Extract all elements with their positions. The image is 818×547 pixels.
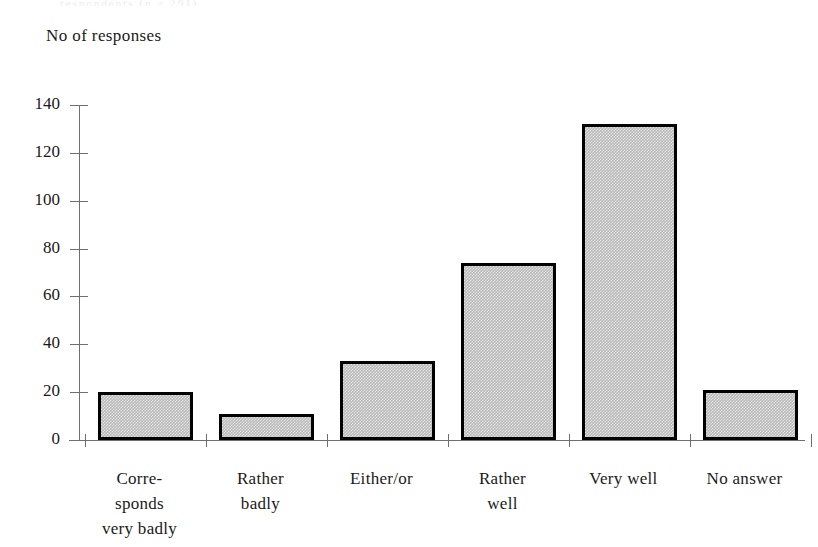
- y-tick-label-100: 100: [14, 190, 60, 210]
- y-tick-label-20: 20: [14, 381, 60, 401]
- bar-1: [98, 392, 194, 440]
- y-tick-80: 80: [70, 249, 88, 250]
- x-label-4: Rather well: [442, 466, 563, 516]
- y-tick-20: 20: [70, 392, 88, 393]
- y-axis-line: [79, 105, 80, 440]
- y-tick-100: 100: [70, 201, 88, 202]
- x-label-2: Rather badly: [200, 466, 321, 516]
- y-tick-label-0: 0: [14, 429, 60, 449]
- y-axis-title: No of responses: [46, 24, 162, 48]
- bar-5: [582, 124, 678, 440]
- y-tick-label-60: 60: [14, 285, 60, 305]
- bar-3: [340, 361, 436, 440]
- y-tick-label-120: 120: [14, 142, 60, 162]
- y-tick-120: 120: [70, 153, 88, 154]
- x-tick-3: [448, 434, 449, 447]
- plot-area: 020406080100120140: [79, 105, 805, 440]
- x-label-6: No answer: [684, 466, 805, 491]
- bar-2: [219, 414, 315, 440]
- x-tick-4: [569, 434, 570, 447]
- x-tick-edge-0: [85, 434, 86, 447]
- y-tick-140: 140: [70, 105, 88, 106]
- x-axis-category-labels: Corre- sponds very badlyRather badlyEith…: [79, 466, 805, 546]
- x-tick-2: [327, 434, 328, 447]
- x-label-5: Very well: [563, 466, 684, 491]
- scan-artifact-text: respondents (n = 291): [60, 0, 480, 6]
- y-tick-60: 60: [70, 296, 88, 297]
- x-tick-edge-6: [811, 434, 812, 447]
- x-label-3: Either/or: [321, 466, 442, 491]
- y-tick-label-40: 40: [14, 333, 60, 353]
- y-tick-label-80: 80: [14, 238, 60, 258]
- bar-4: [461, 263, 557, 440]
- x-axis-line: [69, 440, 805, 441]
- x-tick-1: [206, 434, 207, 447]
- bar-6: [703, 390, 799, 440]
- y-tick-label-140: 140: [14, 94, 60, 114]
- x-tick-5: [690, 434, 691, 447]
- x-label-1: Corre- sponds very badly: [79, 466, 200, 541]
- y-tick-40: 40: [70, 344, 88, 345]
